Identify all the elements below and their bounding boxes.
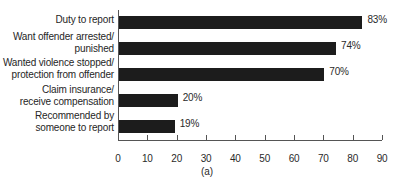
bar-value-label: 20%	[183, 92, 202, 103]
category-label-line: someone to report	[2, 122, 114, 134]
value-axis-tick	[265, 135, 266, 140]
value-axis-tick	[147, 135, 148, 140]
category-label-line: receive compensation	[2, 96, 114, 108]
figure-caption: (a)	[0, 166, 394, 177]
category-label-recommended-by-someone: Recommended by someone to report	[2, 110, 114, 133]
category-label-line: Recommended by	[2, 110, 114, 122]
category-label-line: Wanted violence stopped/	[2, 57, 114, 69]
value-axis-tick	[382, 135, 383, 140]
bar-wanted-violence-stopped	[119, 68, 324, 81]
value-axis-tick	[294, 135, 295, 140]
bar-value-label: 70%	[329, 66, 348, 77]
category-label-line: Claim insurance/	[2, 84, 114, 96]
plot-area: 83% 74% 70% 20% 19% 0102030405060708090	[118, 10, 382, 140]
value-axis-tick	[118, 135, 119, 140]
category-label-line: Want offender arrested/	[2, 31, 114, 43]
bar-claim-insurance	[119, 94, 178, 107]
category-label-line: Duty to report	[2, 14, 114, 26]
category-label-line: punished	[2, 43, 114, 55]
bar-row: 83%	[119, 10, 382, 36]
value-axis-tick-label: 30	[201, 153, 212, 164]
value-axis-tick-label: 90	[377, 153, 388, 164]
value-axis-tick-label: 60	[289, 153, 300, 164]
bar-recommended-by-someone	[119, 120, 175, 133]
bar-row: 19%	[119, 114, 382, 140]
value-axis-tick	[323, 135, 324, 140]
category-label-claim-insurance: Claim insurance/ receive compensation	[2, 84, 114, 107]
bar-value-label: 83%	[367, 14, 386, 25]
bar-want-offender-arrested	[119, 42, 336, 55]
value-axis-tick-label: 50	[259, 153, 270, 164]
value-axis-tick-label: 40	[230, 153, 241, 164]
bar-value-label: 74%	[341, 40, 360, 51]
figure-caption-text: (a)	[201, 166, 213, 177]
category-label-want-offender-arrested: Want offender arrested/ punished	[2, 31, 114, 54]
value-axis-tick	[177, 135, 178, 140]
bar-duty-to-report	[119, 16, 362, 29]
bar-row: 74%	[119, 36, 382, 62]
bar-row: 20%	[119, 88, 382, 114]
category-label-line: protection from offender	[2, 69, 114, 81]
value-axis-tick-label: 80	[347, 153, 358, 164]
bar-value-label: 19%	[180, 118, 199, 129]
value-axis-tick-label: 10	[142, 153, 153, 164]
bar-row: 70%	[119, 62, 382, 88]
category-label-wanted-violence-stopped: Wanted violence stopped/ protection from…	[2, 57, 114, 80]
value-axis-tick-label: 70	[318, 153, 329, 164]
value-axis-tick-label: 0	[115, 153, 120, 164]
value-axis-tick	[235, 135, 236, 140]
value-axis-tick	[206, 135, 207, 140]
value-axis-tick	[353, 135, 354, 140]
value-axis-tick-label: 20	[171, 153, 182, 164]
category-label-duty-to-report: Duty to report	[2, 14, 114, 26]
value-axis-line	[118, 140, 382, 141]
bar-chart-figure: Duty to report Want offender arrested/ p…	[0, 0, 394, 191]
